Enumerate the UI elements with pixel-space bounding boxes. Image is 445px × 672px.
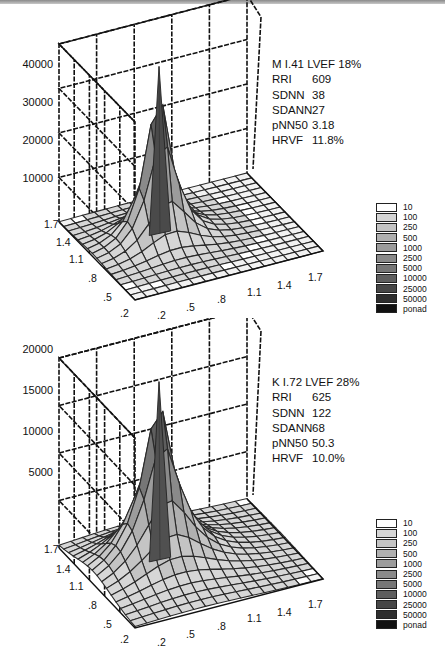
- patient-header: M I.41 LVEF 18%: [272, 57, 361, 72]
- stat-value: 10.0%: [312, 451, 345, 466]
- stat-key: pNN50: [272, 436, 312, 451]
- x-tick-label: 1.1: [247, 286, 262, 298]
- legend-item: 100: [376, 212, 427, 222]
- y-tick-label: .8: [88, 272, 97, 284]
- patient-header: K I.72 LVEF 28%: [272, 375, 359, 390]
- legend-item: 100: [376, 528, 427, 538]
- x-tick-label: .5: [186, 628, 195, 640]
- legend-swatch: [376, 590, 397, 599]
- y-tick-label: .8: [88, 599, 97, 611]
- legend-label: 2500: [403, 569, 422, 579]
- stat-row-sdann: SDANN68: [272, 421, 359, 436]
- x-tick-label: .8: [217, 620, 226, 632]
- stat-row-pnn50: pNN5050.3: [272, 436, 359, 451]
- stat-row-rri: RRI609: [272, 72, 361, 87]
- stat-value: 11.8%: [312, 133, 344, 148]
- legend-label: 250: [403, 538, 417, 548]
- stat-key: RRI: [272, 390, 312, 405]
- stat-value: 122: [312, 406, 331, 421]
- legend-swatch: [376, 539, 397, 548]
- stat-row-hrvf: HRVF11.8%: [272, 133, 361, 148]
- x-tick-label: 1.7: [308, 598, 323, 610]
- stat-key: pNN50: [272, 118, 312, 133]
- stat-key: HRVF: [272, 451, 312, 466]
- legend-swatch: [376, 580, 397, 589]
- legend-label: ponad: [403, 304, 427, 314]
- legend-label: 1000: [403, 243, 422, 253]
- legend-label: 50000: [403, 610, 427, 620]
- z-tick-label: 10000: [3, 425, 53, 437]
- legend-label: 500: [403, 233, 417, 243]
- legend-item: 25000: [376, 600, 427, 610]
- stat-row-sdnn: SDNN38: [272, 88, 361, 103]
- legend-item: 10000: [376, 589, 427, 599]
- stat-row-rri: RRI625: [272, 390, 359, 405]
- legend-swatch: [376, 264, 397, 273]
- legend-label: 10: [403, 518, 412, 528]
- stat-value: 609: [312, 72, 331, 87]
- y-tick-label: 1.4: [56, 563, 71, 575]
- legend-item: ponad: [376, 304, 427, 314]
- legend-label: 250: [403, 222, 417, 232]
- legend-swatch: [376, 274, 397, 283]
- legend-item: 10: [376, 202, 427, 212]
- legend-label: 2500: [403, 253, 422, 263]
- stat-row-pnn50: pNN503.18: [272, 118, 361, 133]
- legend-swatch: [376, 284, 397, 293]
- legend-label: 25000: [403, 600, 427, 610]
- stat-value: 625: [312, 390, 331, 405]
- stat-value: 3.18: [312, 118, 334, 133]
- legend-swatch: [376, 223, 397, 232]
- z-tick-label: 20000: [3, 343, 53, 355]
- x-tick-label: 1.7: [308, 271, 323, 283]
- z-tick-label: 40000: [3, 58, 53, 70]
- color-legend-2: 10100250500100025005000100002500050000po…: [376, 518, 427, 630]
- z-tick-label: 30000: [3, 96, 53, 108]
- legend-item: 1000: [376, 243, 427, 253]
- stat-value: 38: [312, 88, 325, 103]
- stat-key: HRVF: [272, 133, 312, 148]
- stat-key: SDNN: [272, 88, 312, 103]
- z-tick-label: 20000: [3, 134, 53, 146]
- stat-key: SDANN: [272, 103, 312, 118]
- legend-item: ponad: [376, 620, 427, 630]
- legend-item: 250: [376, 222, 427, 232]
- legend-label: 100: [403, 528, 417, 538]
- legend-label: 1000: [403, 559, 422, 569]
- legend-swatch: [376, 233, 397, 242]
- stat-key: RRI: [272, 72, 312, 87]
- legend-item: 500: [376, 233, 427, 243]
- stat-row-hrvf: HRVF10.0%: [272, 451, 359, 466]
- legend-item: 250: [376, 538, 427, 548]
- legend-item: 5000: [376, 263, 427, 273]
- legend-label: 25000: [403, 284, 427, 294]
- x-tick-label: .8: [217, 293, 226, 305]
- stat-value: 68: [312, 421, 325, 436]
- legend-label: 100: [403, 212, 417, 222]
- y-tick-label: 1.4: [56, 236, 71, 248]
- y-tick-label: 1.1: [69, 580, 84, 592]
- y-tick-label: .5: [103, 291, 112, 303]
- legend-item: 5000: [376, 579, 427, 589]
- stat-value: 27: [312, 103, 325, 118]
- x-tick-label: .5: [186, 301, 195, 313]
- legend-item: 50000: [376, 610, 427, 620]
- legend-item: 500: [376, 549, 427, 559]
- stat-row-sdann: SDANN27: [272, 103, 361, 118]
- legend-swatch: [376, 549, 397, 558]
- legend-label: 500: [403, 549, 417, 559]
- y-tick-label: .5: [103, 618, 112, 630]
- chart-panel-1: 40000 30000 20000 10000 1.7 1.4 1.1 .8 .…: [0, 0, 445, 330]
- legend-swatch: [376, 559, 397, 568]
- stat-value: 50.3: [312, 436, 334, 451]
- stats-annotation-1: M I.41 LVEF 18% RRI609 SDNN38 SDANN27 pN…: [272, 57, 361, 149]
- legend-item: 2500: [376, 253, 427, 263]
- legend-swatch: [376, 620, 397, 629]
- y-tick-label: 1.1: [69, 253, 84, 265]
- x-tick-label: 1.4: [277, 279, 292, 291]
- z-tick-label: 10000: [3, 172, 53, 184]
- legend-swatch: [376, 610, 397, 619]
- legend-label: ponad: [403, 620, 427, 630]
- legend-swatch: [376, 519, 397, 528]
- legend-swatch: [376, 254, 397, 263]
